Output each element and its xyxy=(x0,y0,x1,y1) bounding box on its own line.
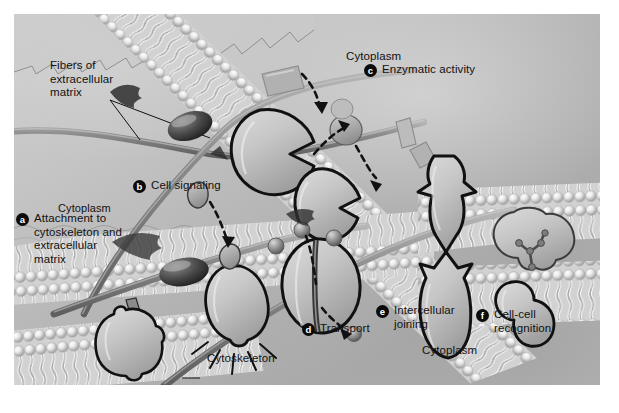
key-a-attachment[interactable]: a Attachment to cytoskeleton and extrace… xyxy=(16,212,128,266)
label-cytoplasm-upper-right: Cytoplasm xyxy=(346,50,401,64)
key-badge-c: c xyxy=(364,64,377,77)
enzyme-intermediate-2 xyxy=(331,99,353,119)
key-f-cell-cell-recognition[interactable]: f Cell-cell recognition xyxy=(476,308,554,335)
enzyme-intermediate xyxy=(330,115,362,145)
label-cytoplasm-bottom: Cytoplasm xyxy=(422,344,477,358)
key-badge-a: a xyxy=(16,213,29,226)
label-cytoskeleton: Cytoskeleton xyxy=(207,352,275,366)
key-c-enzymatic-activity[interactable]: c Enzymatic activity xyxy=(364,63,475,77)
key-label-b: Cell signaling xyxy=(151,179,221,193)
illustration-plate: Cytoplasm Fibers of extracellular matrix… xyxy=(14,14,600,385)
key-label-e: Intercellular joining xyxy=(394,304,455,331)
key-label-a: Attachment to cytoskeleton and extracell… xyxy=(34,212,128,266)
key-badge-b: b xyxy=(133,180,146,193)
key-badge-d: d xyxy=(302,323,315,336)
key-d-transport[interactable]: d Transport xyxy=(302,322,370,336)
label-fibers-extracellular-matrix: Fibers of extracellular matrix xyxy=(50,59,113,100)
key-label-c: Enzymatic activity xyxy=(382,63,475,77)
key-label-f: Cell-cell recognition xyxy=(494,308,554,335)
figure-canvas: Cytoplasm Fibers of extracellular matrix… xyxy=(0,0,619,413)
key-badge-f: f xyxy=(476,309,489,322)
key-badge-e: e xyxy=(376,305,389,318)
protein-glycoprotein-upper xyxy=(494,208,575,271)
protein-attachment xyxy=(96,307,164,381)
key-label-d: Transport xyxy=(320,322,370,336)
key-e-intercellular-joining[interactable]: e Intercellular joining xyxy=(376,304,448,331)
key-b-cell-signaling[interactable]: b Cell signaling xyxy=(133,179,221,193)
